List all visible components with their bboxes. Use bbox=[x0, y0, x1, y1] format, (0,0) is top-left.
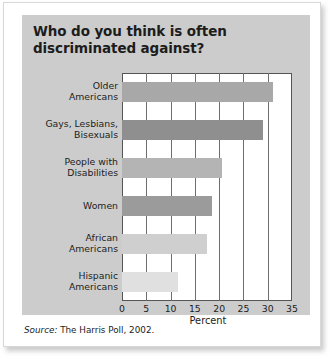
bar bbox=[122, 272, 178, 292]
category-label: OlderAmericans bbox=[26, 81, 118, 102]
category-label-line: Americans bbox=[26, 244, 118, 255]
bar bbox=[122, 82, 273, 102]
bar-row bbox=[122, 263, 178, 301]
bar-row bbox=[122, 111, 263, 149]
x-tick-label: 30 bbox=[257, 303, 279, 314]
category-label-line: Bisexuals bbox=[26, 130, 118, 141]
bar bbox=[122, 158, 222, 178]
source-note: Source: The Harris Poll, 2002. bbox=[24, 325, 154, 335]
bar bbox=[122, 234, 207, 254]
plot-area-wrapper bbox=[122, 73, 294, 303]
bar-row bbox=[122, 149, 222, 187]
category-label: Women bbox=[26, 201, 118, 212]
source-prefix: Source: bbox=[24, 325, 57, 335]
category-label-line: Americans bbox=[26, 282, 118, 293]
category-label: People withDisabilities bbox=[26, 157, 118, 178]
x-tick-label: 25 bbox=[232, 303, 254, 314]
x-tick-label: 15 bbox=[184, 303, 206, 314]
category-label-line: Americans bbox=[26, 92, 118, 103]
x-tick-label: 10 bbox=[160, 303, 182, 314]
x-tick-label: 35 bbox=[281, 303, 303, 314]
category-label: Gays, Lesbians,Bisexuals bbox=[26, 119, 118, 140]
category-label: HispanicAmericans bbox=[26, 271, 118, 292]
category-label-line: Women bbox=[26, 201, 118, 212]
chart-title: Who do you think is often discriminated … bbox=[33, 23, 283, 57]
category-label: AfricanAmericans bbox=[26, 233, 118, 254]
x-tick-label: 0 bbox=[111, 303, 133, 314]
bar bbox=[122, 196, 212, 216]
page-border: Who do you think is often discriminated … bbox=[3, 2, 321, 347]
category-label-line: Disabilities bbox=[26, 168, 118, 179]
x-tick-label: 5 bbox=[135, 303, 157, 314]
source-text: The Harris Poll, 2002. bbox=[60, 325, 154, 335]
page-canvas: Who do you think is often discriminated … bbox=[0, 0, 330, 356]
chart-panel: Who do you think is often discriminated … bbox=[22, 15, 310, 315]
bar-row bbox=[122, 73, 273, 111]
bar-row bbox=[122, 225, 207, 263]
x-tick-label: 20 bbox=[208, 303, 230, 314]
bar bbox=[122, 120, 263, 140]
bar-row bbox=[122, 187, 212, 225]
